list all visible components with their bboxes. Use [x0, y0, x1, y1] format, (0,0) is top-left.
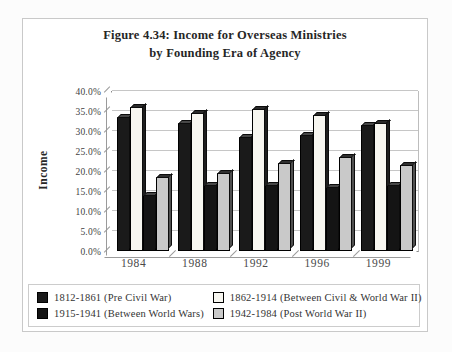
x-axis-label-1984: 1984: [103, 257, 164, 269]
y-tick-label: 0.0%: [31, 247, 101, 257]
x-axis-label-1988: 1988: [164, 257, 225, 269]
y-tick-label: 10.0%: [31, 207, 101, 217]
figure-title-line1: Figure 4.34: Income for Overseas Ministr…: [23, 26, 427, 44]
bar-1996-series1: [300, 135, 313, 251]
bar-side-face: [351, 153, 355, 249]
legend-label: 1942-1984 (Post World War II): [230, 308, 367, 319]
legend-item-2: 1862-1914 (Between Civil & World War II): [213, 292, 411, 303]
x-axis-label-1992: 1992: [225, 257, 286, 269]
bar-side-face: [412, 161, 416, 249]
bar-1988-series2: [191, 113, 204, 251]
y-tick-label: 20.0%: [31, 167, 101, 177]
y-tick-label: 40.0%: [31, 87, 101, 97]
y-tick-label: 5.0%: [31, 227, 101, 237]
legend-item-1: 1812-1861 (Pre Civil War): [37, 292, 213, 303]
y-tick-label: 15.0%: [31, 187, 101, 197]
plot-area: 0.0%5.0%10.0%15.0%20.0%25.0%30.0%35.0%40…: [111, 91, 419, 252]
bar-group-1996: [296, 91, 357, 251]
bar-1996-series2: [313, 115, 326, 251]
legend-swatch-2: [213, 292, 224, 303]
bar-group-1992: [234, 91, 295, 251]
legend: 1812-1861 (Pre Civil War)1862-1914 (Betw…: [28, 284, 420, 327]
y-tick-label: 30.0%: [31, 127, 101, 137]
y-tick-mark: [104, 86, 110, 92]
bar-1996-series3: [326, 187, 339, 251]
bar-1999-series3: [387, 185, 400, 251]
bar-1992-series1: [239, 137, 252, 251]
legend-item-3: 1915-1941 (Between World Wars): [37, 308, 213, 319]
legend-swatch-3: [37, 308, 48, 319]
bar-1999-series4: [400, 165, 413, 251]
bar-1988-series4: [217, 173, 230, 251]
bar-1999-series1: [361, 125, 374, 251]
y-tick-label: 25.0%: [31, 147, 101, 157]
y-tick-label: 35.0%: [31, 107, 101, 117]
bar-1988-series1: [178, 123, 191, 251]
bar-1984-series3: [143, 195, 156, 251]
bar-1992-series3: [265, 185, 278, 251]
bar-side-face: [290, 159, 294, 249]
bar-1999-series2: [374, 123, 387, 251]
bar-1992-series4: [278, 163, 291, 251]
bar-1984-series4: [156, 177, 169, 251]
figure-title: Figure 4.34: Income for Overseas Ministr…: [23, 26, 427, 62]
legend-label: 1915-1941 (Between World Wars): [54, 308, 204, 319]
legend-label: 1812-1861 (Pre Civil War): [54, 292, 171, 303]
bar-1984-series1: [117, 117, 130, 251]
bar-group-1999: [357, 91, 418, 251]
figure-title-line2: by Founding Era of Agency: [23, 44, 427, 62]
bar-1988-series3: [204, 185, 217, 251]
bar-1996-series4: [339, 157, 352, 251]
legend-label: 1862-1914 (Between Civil & World War II): [230, 292, 422, 303]
x-axis-label-1999: 1999: [348, 257, 409, 269]
bar-side-face: [168, 173, 172, 249]
legend-swatch-4: [213, 308, 224, 319]
bar-side-face: [229, 169, 233, 249]
x-axis-label-1996: 1996: [287, 257, 348, 269]
bar-group-1988: [173, 91, 234, 251]
figure-page: Figure 4.34: Income for Overseas Ministr…: [0, 0, 452, 352]
figure-frame: Figure 4.34: Income for Overseas Ministr…: [22, 18, 428, 332]
bar-1984-series2: [130, 107, 143, 251]
bar-1992-series2: [252, 109, 265, 251]
legend-swatch-1: [37, 292, 48, 303]
bar-group-1984: [112, 91, 173, 251]
legend-item-4: 1942-1984 (Post World War II): [213, 308, 411, 319]
